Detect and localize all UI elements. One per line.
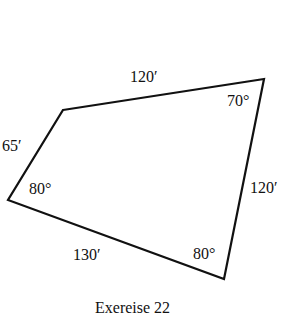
side-label-left: 65′ (2, 137, 22, 154)
side-label-right: 120′ (250, 179, 278, 196)
angle-label-top-right: 70° (227, 92, 249, 109)
side-label-bottom: 130′ (73, 246, 101, 263)
quadrilateral-shape (8, 79, 264, 279)
quadrilateral-diagram: 120′ 120′ 130′ 65′ 70° 80° 80° Exereise … (0, 0, 287, 318)
angle-label-bottom: 80° (193, 245, 215, 262)
caption: Exereise 22 (95, 299, 170, 316)
angle-label-left: 80° (29, 180, 51, 197)
side-label-top: 120′ (130, 68, 158, 85)
